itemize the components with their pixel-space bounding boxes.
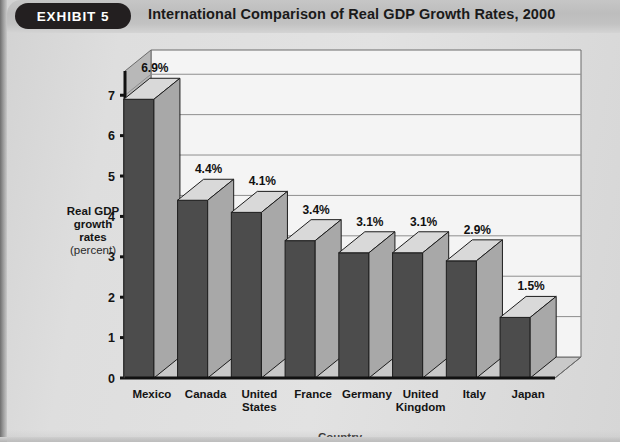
chart-container: 012345676.9%Mexico4.4%Canada4.1%UnitedSt…: [7, 33, 620, 437]
bar-front: [285, 241, 315, 378]
y-tick-label: 1: [108, 331, 115, 345]
exhibit-title: International Comparison of Real GDP Gro…: [148, 6, 555, 22]
y-tick-label: 6: [108, 129, 115, 143]
x-category-label: United: [403, 388, 439, 400]
bar-side: [315, 220, 341, 378]
y-tick-label: 7: [108, 89, 115, 103]
bar-value-label: 4.4%: [195, 162, 223, 176]
y-axis-title-unit: (percent): [70, 244, 116, 256]
x-category-label: Japan: [512, 388, 545, 400]
y-axis-title-line: Real GDP: [67, 205, 120, 217]
bar-group: [393, 232, 449, 378]
y-tick-label: 0: [108, 372, 115, 386]
x-category-label: Canada: [185, 388, 227, 400]
x-category-label: France: [294, 388, 332, 400]
bar-side: [261, 191, 287, 378]
x-category-label: States: [242, 401, 277, 413]
bar-group: [285, 220, 341, 378]
bar-value-label: 1.5%: [517, 279, 545, 293]
bar-group: [231, 191, 287, 378]
x-category-label: Italy: [463, 388, 487, 400]
bar-value-label: 4.1%: [249, 174, 277, 188]
bar-group: [178, 179, 234, 378]
bar-front: [500, 317, 530, 378]
exhibit-badge: EXHIBIT 5: [15, 3, 131, 29]
y-axis-title-line: rates: [79, 231, 107, 243]
bar-side: [476, 240, 502, 378]
bar-front: [339, 253, 369, 378]
x-category-label: United: [241, 388, 277, 400]
bar-front: [231, 212, 261, 378]
gdp-growth-bar-chart: 012345676.9%Mexico4.4%Canada4.1%UnitedSt…: [7, 33, 620, 437]
y-axis-title-line: growth: [74, 218, 112, 230]
bar-value-label: 2.9%: [464, 223, 492, 237]
x-category-label: Kingdom: [396, 401, 446, 413]
bar-side: [369, 232, 395, 378]
page-bottom-edge: [0, 437, 620, 442]
bar-front: [393, 253, 423, 378]
exhibit-header: EXHIBIT 5 International Comparison of Re…: [7, 0, 620, 33]
x-category-label: Mexico: [132, 388, 171, 400]
bar-group: [446, 240, 502, 378]
y-tick-label: 2: [108, 291, 115, 305]
bar-front: [124, 99, 154, 378]
bar-group: [339, 232, 395, 378]
bar-front: [178, 200, 208, 378]
bar-side: [208, 179, 234, 378]
x-category-label: Germany: [342, 388, 392, 400]
y-tick-label: 5: [108, 170, 115, 184]
bar-side: [154, 78, 180, 378]
bar-side: [423, 232, 449, 378]
bar-value-label: 3.4%: [302, 203, 330, 217]
bar-value-label: 6.9%: [141, 61, 169, 75]
bar-value-label: 3.1%: [356, 215, 384, 229]
bar-front: [446, 261, 476, 378]
bar-value-label: 3.1%: [410, 215, 438, 229]
page-left-edge: [0, 0, 7, 442]
bar-group: [124, 78, 180, 378]
